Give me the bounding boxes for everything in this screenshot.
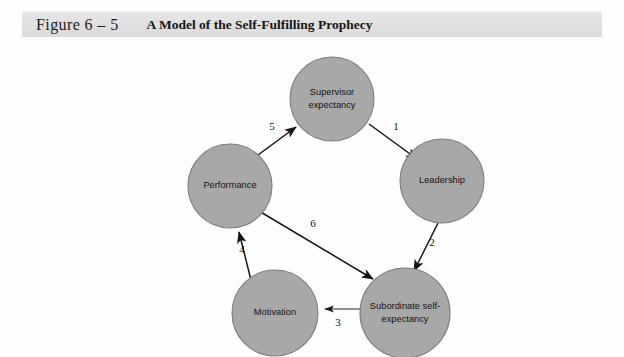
node-supervisor-expectancy-label-line2: expectancy xyxy=(308,100,355,110)
node-leadership: Leadership xyxy=(400,139,484,223)
figure-root: Figure 6 – 5 A Model of the Self-Fulfill… xyxy=(0,0,624,357)
node-performance: Performance xyxy=(188,144,272,228)
node-leadership-label: Leadership xyxy=(419,175,465,185)
figure-number-label: Figure 6 – 5 xyxy=(36,16,119,34)
node-supervisor-expectancy: Supervisor expectancy xyxy=(290,57,374,141)
edge-1: 1 xyxy=(369,120,417,159)
edge-2-number: 2 xyxy=(429,236,435,248)
self-fulfilling-prophecy-diagram: 5 1 2 3 4 xyxy=(0,36,624,357)
edge-5: 5 xyxy=(258,120,296,155)
node-subordinate-self-expectancy-circle xyxy=(360,268,450,357)
node-supervisor-expectancy-circle xyxy=(290,57,374,141)
figure-caption-bar: Figure 6 – 5 A Model of the Self-Fulfill… xyxy=(22,11,602,37)
node-subordinate-self-expectancy-label-line1: Subordinate self- xyxy=(370,301,440,311)
edge-6-number: 6 xyxy=(310,217,316,229)
diagram-canvas: 5 1 2 3 4 xyxy=(0,36,624,357)
edge-5-number: 5 xyxy=(269,120,275,132)
edge-4-number: 4 xyxy=(239,243,245,255)
node-motivation-label: Motivation xyxy=(254,307,296,317)
edge-3-number: 3 xyxy=(335,316,341,328)
node-subordinate-self-expectancy-label-line2: expectancy xyxy=(381,314,428,324)
edge-3: 3 xyxy=(325,309,361,328)
edge-6: 6 xyxy=(259,211,373,279)
node-performance-label: Performance xyxy=(203,180,256,190)
node-motivation: Motivation xyxy=(232,270,318,356)
node-supervisor-expectancy-label-line1: Supervisor xyxy=(310,87,354,97)
figure-title: A Model of the Self-Fulfilling Prophecy xyxy=(147,17,373,33)
node-subordinate-self-expectancy: Subordinate self- expectancy xyxy=(360,268,450,357)
edge-1-number: 1 xyxy=(393,120,399,132)
edge-2: 2 xyxy=(414,223,438,271)
